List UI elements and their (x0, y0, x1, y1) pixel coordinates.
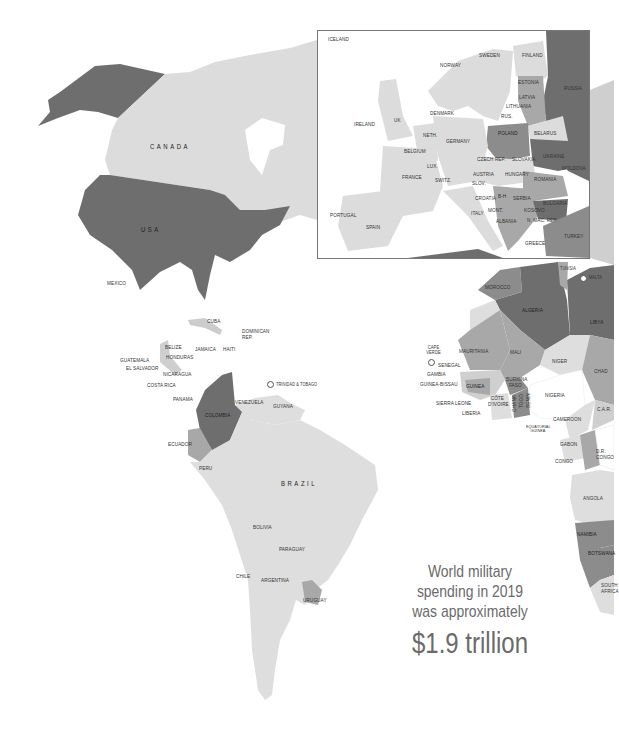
label-paraguay: PARAGUAY (279, 547, 305, 553)
label-greece: GREECE (525, 241, 545, 247)
label-portugal: PORTUGAL (330, 213, 356, 219)
label-sweden: SWEDEN (479, 53, 500, 59)
label-sierra-leone: SIERRA LEONE (436, 401, 471, 407)
spending-caption: World military spending in 2019 was appr… (395, 562, 545, 660)
label-nigeria: NIGERIA (545, 393, 565, 399)
label-libya: LIBYA (590, 320, 603, 326)
label-eq-guinea: EQUATORIAL GUINEA (526, 425, 550, 434)
label-usa: USA (141, 226, 161, 233)
label-uk: UK (394, 118, 401, 124)
label-ireland: IRELAND (354, 122, 375, 128)
label-mexico: MEXICO (107, 281, 126, 287)
label-canada: CANADA (150, 143, 190, 150)
label-chad: CHAD (594, 369, 608, 375)
label-tunisia: TUNISIA (560, 267, 576, 272)
label-south-africa: SOUTH AFRICA (601, 583, 613, 594)
label-lux: LUX. (427, 164, 438, 170)
label-guatemala: GUATEMALA (120, 358, 149, 364)
label-bulgaria: BULGARIA (543, 201, 567, 207)
label-belgium: BELGIUM (404, 149, 426, 155)
label-belize: BELIZE (165, 345, 182, 351)
region-middle-east (590, 80, 614, 265)
label-colombia: COLOMBIA (205, 413, 230, 419)
label-italy: ITALY (471, 211, 484, 217)
label-rus: RUS. (501, 114, 513, 120)
trinidad-marker-icon (267, 381, 274, 388)
label-ukraine: UKRAINE (543, 154, 564, 160)
label-romania: ROMANIA (534, 177, 556, 183)
label-poland: POLAND (498, 131, 518, 137)
label-cote: CÔTE D'IVOIRE (488, 396, 507, 407)
label-lithuania: LITHUANIA (506, 104, 531, 110)
label-gambia: GAMBIA (427, 372, 446, 378)
label-estonia: ESTONIA (518, 80, 539, 86)
label-cuba: CUBA (207, 319, 220, 325)
label-ecuador: ECUADOR (168, 442, 192, 448)
label-malta: MALTA (589, 276, 602, 281)
label-slovakia: SLOVAKIA (512, 157, 535, 163)
label-venezuela: VENEZUELA (235, 400, 264, 406)
label-brazil: BRAZIL (281, 480, 317, 487)
label-denmark: DENMARK (430, 111, 454, 117)
label-albania: ALBANIA (496, 219, 516, 225)
europe-inset: ICELAND NORWAY SWEDEN FINLAND ESTONIA RU… (317, 30, 590, 259)
label-belarus: BELARUS (534, 131, 556, 137)
label-latvia: LATVIA (519, 95, 535, 101)
label-mont: MONT. (488, 208, 503, 214)
label-senegal: SENEGAL (438, 363, 461, 369)
label-hungary: HUNGARY (505, 172, 529, 178)
label-iceland: ICELAND (328, 37, 349, 43)
label-angola: ANGOLA (583, 496, 603, 502)
region-ireland (358, 101, 376, 123)
label-czech-rep: CZECH REP. (477, 157, 506, 163)
label-costa-rica: COSTA RICA (147, 383, 176, 389)
label-bh: B-H (498, 194, 506, 200)
label-el-salvador: EL SALVADOR (126, 366, 159, 372)
label-neth: NETH. (423, 133, 437, 139)
label-turkey: TURKEY (564, 234, 583, 240)
label-benin: BENIN (526, 393, 532, 408)
label-niger: NIGER (552, 359, 567, 365)
label-burkina: BURKINA FASO (506, 377, 525, 388)
label-guinea: GUINEA (466, 384, 484, 390)
region-uk (378, 79, 413, 141)
label-norway: NORWAY (440, 63, 461, 69)
label-uruguay: URUGUAY (303, 598, 327, 604)
label-croatia: CROATIA (475, 196, 496, 202)
region-africa-strip (408, 249, 503, 258)
caption-line-2: spending in 2019 (409, 582, 532, 602)
label-chile: CHILE (236, 574, 250, 580)
label-cape-verde: CAPE VERDE (425, 346, 442, 356)
label-germany: GERMANY (446, 139, 470, 145)
label-spain: SPAIN (366, 225, 380, 231)
label-dr-congo: D.R. CONGO (596, 449, 611, 460)
label-liberia: LIBERIA (462, 411, 481, 417)
label-kosovo: KOSOVO (524, 208, 545, 214)
label-haiti: HAITI (223, 347, 235, 353)
label-bolivia: BOLIVIA (253, 525, 272, 531)
label-ghana: GHANA (512, 395, 518, 412)
label-switz: SWITZ. (435, 178, 451, 184)
malta-marker-icon (580, 275, 587, 282)
label-panama: PANAMA (173, 397, 193, 403)
label-nicaragua: NICARAGUA (163, 372, 192, 378)
caption-line-1: World military (409, 562, 532, 582)
label-morocco: MOROCCO (485, 285, 511, 291)
label-austria: AUSTRIA (473, 172, 494, 178)
label-russia: RUSSIA (564, 86, 582, 92)
label-peru: PERU (199, 466, 212, 472)
label-trinidad: TRINIDAD & TOBAGO (276, 383, 317, 388)
label-dominican-rep: DOMINICAN REP. (242, 329, 268, 340)
label-slov: SLOV. (472, 181, 486, 187)
label-gabon: GABON (560, 442, 577, 448)
label-honduras: HONDURAS (166, 355, 193, 361)
label-car: C.A.R. (597, 407, 611, 413)
label-mauritania: MAURITANIA (459, 349, 488, 355)
label-n-mac: N. MAC. REP. (527, 218, 557, 224)
label-france: FRANCE (402, 175, 422, 181)
region-car (592, 400, 614, 430)
label-guyana: GUYANA (273, 404, 293, 410)
label-guinea-bissau: GUINEA-BISSAU (420, 382, 458, 388)
label-moldova: MOLDOVA (562, 166, 586, 172)
label-jamaica: JAMAICA (195, 347, 216, 353)
